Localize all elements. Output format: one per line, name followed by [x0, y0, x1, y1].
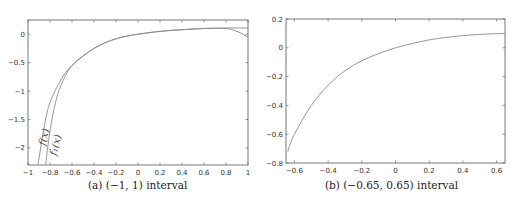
y-tick-label: −0.6 [266, 131, 284, 139]
series-line [38, 28, 248, 165]
y-tick-label: 0 [21, 31, 25, 39]
x-tick-label: 0.2 [154, 169, 165, 177]
caption-a: (a) (−1, 1) interval [88, 179, 188, 191]
x-tick-label: −0.8 [42, 169, 59, 177]
x-tick-label: −1 [23, 169, 33, 177]
y-tick-label: −1 [15, 88, 25, 96]
chart-b: −0.6−0.4−0.200.20.40.6 0.20−0.2−0.4−0.6−… [266, 16, 505, 192]
y-tick-label: −0.2 [266, 73, 283, 81]
series-line [46, 28, 248, 165]
y-tick-label: −2 [15, 144, 25, 152]
x-tick-label: −0.6 [286, 167, 304, 175]
y-axis-b: 0.20−0.2−0.4−0.6−0.8 [266, 16, 505, 168]
x-tick-label: −0.6 [64, 169, 82, 177]
series-b [288, 33, 505, 151]
caption-b: (b) (−0.65, 0.65) interval [325, 179, 459, 191]
x-tick-label: 0.8 [220, 169, 231, 177]
series-line [288, 33, 505, 151]
y-tick-label: 0.2 [272, 16, 283, 24]
y-tick-label: −0.8 [266, 160, 283, 168]
x-tick-label: 0.4 [457, 167, 469, 175]
chart-a: −1−0.8−0.6−0.4−0.200.20.40.60.81 0−0.5−1… [8, 20, 250, 191]
x-tick-label: 0.2 [424, 167, 435, 175]
x-tick-label: −0.2 [108, 169, 125, 177]
x-tick-label: −0.4 [320, 167, 338, 175]
y-tick-label: 0 [279, 44, 283, 52]
figure: −1−0.8−0.6−0.4−0.200.20.40.60.81 0−0.5−1… [0, 0, 518, 200]
x-tick-label: 0.6 [198, 169, 210, 177]
x-axis-b: −0.6−0.4−0.200.20.40.6 [286, 19, 503, 175]
x-tick-label: −0.4 [86, 169, 104, 177]
series-a [38, 28, 248, 165]
x-tick-label: 1 [246, 169, 250, 177]
x-tick-label: 0.6 [491, 167, 503, 175]
y-tick-label: −1.5 [8, 116, 25, 124]
x-tick-label: 0.4 [176, 169, 188, 177]
plot-frame-b [286, 19, 505, 163]
y-tick-label: −0.4 [266, 102, 284, 110]
x-tick-label: 0 [136, 169, 140, 177]
y-tick-label: −0.5 [8, 59, 25, 67]
x-tick-label: −0.2 [353, 167, 370, 175]
x-tick-label: 0 [393, 167, 397, 175]
